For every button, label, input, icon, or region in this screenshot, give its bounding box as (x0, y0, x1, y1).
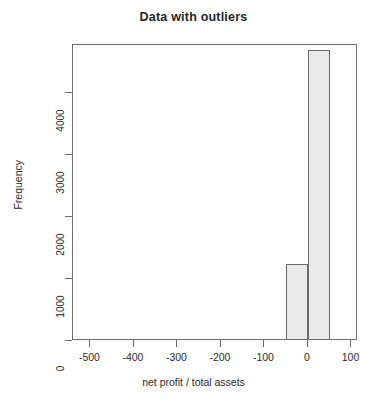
y-axis-tick-label: 1000 (55, 277, 66, 337)
histogram-bar (308, 50, 330, 340)
y-axis-tick (65, 92, 72, 93)
x-axis-title: net profit / total assets (0, 376, 387, 388)
y-axis-tick (65, 340, 72, 341)
x-axis-tick-label: -100 (253, 351, 274, 363)
x-axis-tick-label: 0 (304, 351, 310, 363)
plot-inner (73, 45, 356, 339)
x-axis-tick (350, 340, 351, 347)
y-axis-tick (65, 278, 72, 279)
y-axis-tick-label: 3000 (55, 153, 66, 213)
x-axis-tick (220, 340, 221, 347)
x-axis-tick (176, 340, 177, 347)
chart-title: Data with outliers (0, 10, 387, 24)
x-axis-tick-label: -300 (166, 351, 187, 363)
x-axis-tick (307, 340, 308, 347)
x-axis-tick (263, 340, 264, 347)
y-axis-tick-label: 0 (55, 339, 66, 399)
x-axis-tick (89, 340, 90, 347)
x-axis-tick-label: 100 (342, 351, 360, 363)
x-axis-tick (133, 340, 134, 347)
histogram-bar (286, 264, 308, 340)
y-axis-tick-label: 2000 (55, 215, 66, 275)
x-axis-tick-label: -500 (79, 351, 100, 363)
x-axis-tick-label: -400 (122, 351, 143, 363)
histogram-figure: Data with outliers 01000200030004000-500… (0, 0, 387, 415)
y-axis-tick (65, 154, 72, 155)
plot-area (72, 44, 357, 340)
y-axis-tick-label: 4000 (55, 91, 66, 151)
y-axis-tick (65, 216, 72, 217)
y-axis-title: Frequency (12, 160, 24, 210)
x-axis-tick-label: -200 (209, 351, 230, 363)
